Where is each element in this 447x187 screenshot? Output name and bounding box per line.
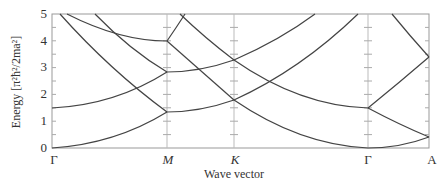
band-kg-1 (234, 100, 368, 148)
y-tick-2: 2 (41, 86, 48, 101)
kpoint-m: M (162, 152, 175, 167)
band-ga-4 (392, 14, 429, 57)
band-kg-4 (234, 14, 315, 60)
band-structure-chart: 0 1 2 3 4 5 Γ M K Γ A Wave vector Energy… (0, 0, 447, 187)
kpoint-k: K (230, 152, 241, 167)
x-kpoint-labels: Γ M K Γ A (50, 152, 437, 167)
y-axis-title: Energy [π²ħ²/2ma²] (9, 36, 23, 128)
y-tick-0: 0 (41, 140, 48, 155)
band-gm-1 (52, 112, 167, 148)
y-tick-1: 1 (41, 113, 48, 128)
band-mk-4 (167, 41, 234, 100)
kpoint-gamma-1: Γ (50, 152, 58, 167)
band-curves (52, 14, 429, 148)
band-gm-4 (95, 14, 167, 72)
tick-marks (52, 27, 429, 134)
band-ga-3 (368, 57, 429, 108)
band-mk-5 (180, 14, 234, 60)
kpoint-a: A (427, 152, 437, 167)
y-tick-labels: 0 1 2 3 4 5 (41, 6, 48, 155)
band-gm-2 (52, 72, 167, 108)
band-mk-1 (167, 100, 234, 112)
band-ga-1 (368, 137, 429, 148)
band-ga-2 (368, 108, 429, 137)
y-tick-5: 5 (41, 6, 48, 21)
kpoint-gamma-2: Γ (364, 152, 372, 167)
plot-frame (52, 14, 429, 148)
x-axis-title: Wave vector (204, 167, 264, 181)
y-tick-4: 4 (41, 33, 48, 48)
y-tick-3: 3 (41, 59, 48, 74)
band-kg-2 (234, 60, 368, 108)
y-axis-title-text: Energy [π²ħ²/2ma²] (9, 36, 23, 128)
